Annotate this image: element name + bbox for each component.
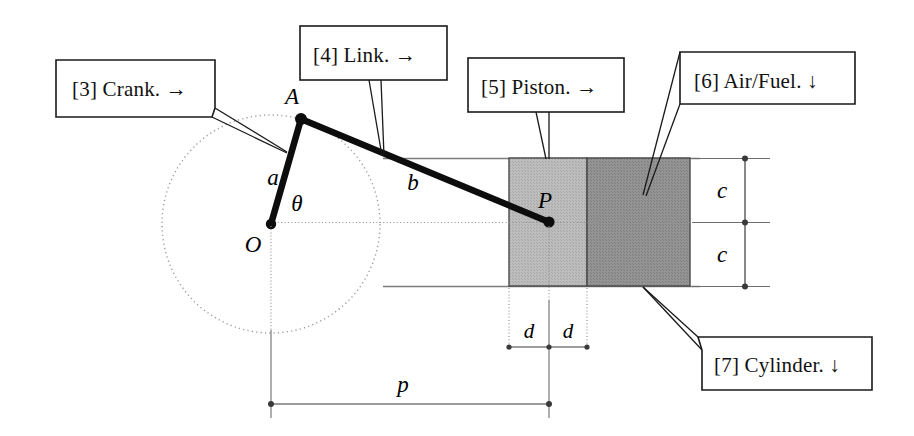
d-dot-mid: [546, 344, 551, 349]
d-dot-right: [584, 344, 589, 349]
callout-airfuel[interactable]: [6] Air/Fuel. ↓: [680, 52, 855, 104]
dim-label-a: a: [267, 165, 279, 190]
dim-label-c-lower: c: [717, 242, 727, 267]
point-label-o: O: [245, 232, 262, 257]
dimension-d-group: d d: [506, 288, 589, 352]
dim-label-b: b: [407, 170, 419, 195]
dim-label-theta: θ: [291, 191, 302, 216]
callout-cylinder-label: [7] Cylinder. ↓: [714, 353, 840, 377]
c-dot-mid: [742, 220, 748, 226]
leader-cylinder-b: [643, 287, 702, 350]
callout-link-label: [4] Link. →: [313, 43, 416, 67]
dim-label-p: p: [395, 372, 409, 397]
leader-crank-a: [215, 108, 287, 152]
callout-cylinder[interactable]: [7] Cylinder. ↓: [698, 337, 872, 390]
callout-airfuel-label: [6] Air/Fuel. ↓: [694, 69, 818, 93]
dim-label-d-right: d: [563, 319, 574, 343]
c-dot-bottom: [742, 284, 748, 290]
joint-o: [266, 219, 276, 229]
leader-link-b: [381, 80, 384, 156]
dim-label-c-upper: c: [717, 178, 727, 203]
callout-link[interactable]: [4] Link. →: [300, 26, 447, 80]
p-dim-left-dot: [268, 401, 274, 407]
callout-crank[interactable]: [3] Crank. →: [56, 60, 215, 117]
point-label-p: P: [537, 188, 552, 213]
leader-piston-a: [536, 112, 546, 159]
joint-p: [543, 216, 554, 227]
dimension-c-group: c c: [692, 156, 770, 290]
callout-piston[interactable]: [5] Piston. →: [468, 58, 624, 112]
dimension-p: p: [268, 372, 552, 407]
leader-crank-b: [212, 117, 287, 153]
diagram-canvas: p d d c c A O P a: [0, 0, 914, 436]
d-dot-left: [506, 344, 511, 349]
point-label-a: A: [283, 84, 300, 109]
c-dot-top: [742, 156, 748, 162]
joint-a: [295, 113, 307, 125]
callout-piston-label: [5] Piston. →: [481, 75, 597, 99]
dim-label-d-left: d: [524, 319, 535, 343]
engine-diagram-figure: p d d c c A O P a: [0, 0, 914, 436]
p-dim-right-dot: [546, 401, 552, 407]
callout-crank-label: [3] Crank. →: [72, 77, 187, 101]
leader-cylinder-a: [643, 287, 698, 337]
